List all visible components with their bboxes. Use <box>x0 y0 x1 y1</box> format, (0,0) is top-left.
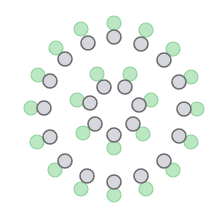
outer-grey-node-10 <box>58 154 72 168</box>
outer-grey-node-8 <box>107 175 121 189</box>
inner-grey-node-5 <box>88 117 102 131</box>
outer-grey-node-13 <box>43 74 57 88</box>
outer-grey-node-2 <box>157 53 171 67</box>
outer-green-node-9 <box>74 182 88 196</box>
inner-green-node-6 <box>70 93 84 107</box>
outer-green-node-1 <box>139 23 153 37</box>
circle-pairs-diagram <box>0 0 221 215</box>
inner-green-node-0 <box>90 67 104 81</box>
inner-grey-node-1 <box>118 80 132 94</box>
outer-grey-node-3 <box>172 75 186 89</box>
outer-green-node-11 <box>30 135 44 149</box>
outer-grey-node-4 <box>177 102 191 116</box>
inner-green-node-4 <box>107 141 121 155</box>
diagram-canvas <box>0 0 221 215</box>
inner-grey-node-4 <box>107 128 121 142</box>
outer-grey-node-6 <box>157 154 171 168</box>
inner-grey-node-6 <box>83 96 97 110</box>
outer-green-node-0 <box>107 16 121 30</box>
outer-green-node-7 <box>139 182 153 196</box>
outer-grey-node-7 <box>134 169 148 183</box>
inner-green-node-5 <box>76 126 90 140</box>
outer-green-node-8 <box>107 188 121 202</box>
outer-grey-node-1 <box>134 37 148 51</box>
outer-grey-node-15 <box>81 36 95 50</box>
outer-grey-node-5 <box>172 129 186 143</box>
inner-grey-node-3 <box>126 117 140 131</box>
inner-grey-node-0 <box>97 80 111 94</box>
outer-grey-node-0 <box>107 30 121 44</box>
outer-green-node-4 <box>190 102 204 116</box>
inner-grey-node-2 <box>132 98 146 112</box>
inner-green-node-1 <box>123 67 137 81</box>
grey-nodes-layer <box>37 30 191 189</box>
outer-green-node-15 <box>74 22 88 36</box>
outer-green-node-12 <box>24 101 38 115</box>
outer-grey-node-11 <box>43 130 57 144</box>
outer-grey-node-9 <box>80 169 94 183</box>
outer-grey-node-12 <box>37 101 51 115</box>
outer-grey-node-14 <box>58 52 72 66</box>
